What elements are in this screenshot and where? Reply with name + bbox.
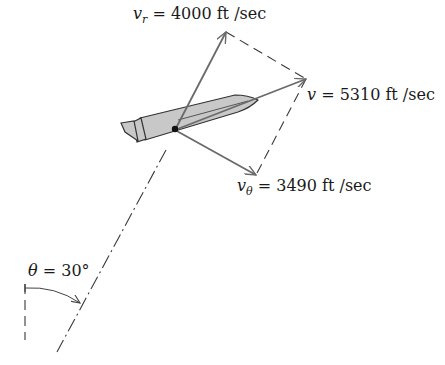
dashed-line-v-to-vtheta [256, 79, 306, 175]
theta-angle-arc [25, 288, 80, 303]
dashed-line-vr-to-v [226, 32, 306, 79]
label-v-value: 5310 [340, 85, 381, 104]
vector-vtheta [175, 130, 256, 175]
label-vr-unit: ft /sec [212, 4, 267, 23]
label-v-symbol: v [307, 85, 316, 104]
radial-reference-line [57, 150, 166, 352]
label-theta-symbol: θ [28, 261, 38, 280]
label-vr: vr = 4000 ft /sec [133, 6, 266, 25]
label-vtheta-subscript: θ [246, 185, 253, 198]
label-v-unit: ft /sec [380, 85, 435, 104]
label-vtheta-unit: ft /sec [317, 176, 372, 195]
label-vr-symbol: v [133, 4, 142, 23]
label-vtheta-equals: = [253, 176, 277, 195]
label-theta-equals: = [38, 261, 62, 280]
label-vr-equals: = [147, 4, 171, 23]
label-theta: θ = 30° [28, 263, 90, 279]
label-v: v = 5310 ft /sec [307, 87, 435, 103]
rocket-center-dot [172, 126, 178, 132]
label-vtheta-symbol: v [237, 176, 246, 195]
velocity-diagram [0, 0, 445, 365]
label-vtheta: vθ = 3490 ft /sec [237, 178, 372, 197]
label-v-equals: = [316, 85, 340, 104]
label-vr-value: 4000 [171, 4, 212, 23]
label-vtheta-value: 3490 [276, 176, 317, 195]
label-theta-value: 30° [61, 261, 89, 280]
